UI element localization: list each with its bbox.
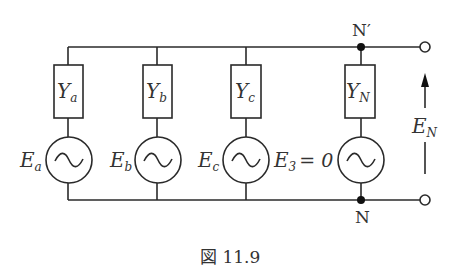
- svg-text:Ea: Ea: [19, 148, 42, 174]
- branch-n: YN E3= 0: [273, 47, 384, 200]
- branch-a: Ya Ea: [19, 47, 92, 200]
- terminal-top-icon: [420, 42, 430, 52]
- node-n-prime-dot: [357, 43, 365, 51]
- branch-b: Yb Eb: [109, 47, 181, 200]
- ec-label: E: [197, 148, 213, 172]
- node-n-prime-label: N′: [352, 20, 371, 40]
- eb-label: E: [109, 148, 125, 172]
- circuit-diagram: Ya Ea Yb Eb Yc Ec YN E3= 0 N′ N: [0, 0, 470, 269]
- ea-label: E: [19, 148, 35, 172]
- node-n-label: N: [355, 207, 370, 227]
- terminal-bottom-icon: [420, 195, 430, 205]
- branch-c: Yc Ec: [197, 47, 269, 200]
- e3-label: E: [273, 148, 289, 172]
- en-label: E: [411, 114, 427, 138]
- svg-text:EN: EN: [411, 114, 438, 140]
- figure-caption: 図 11.9: [200, 247, 260, 267]
- svg-text:Eb: Eb: [109, 148, 132, 174]
- voltage-arrow-en: EN: [411, 73, 438, 174]
- svg-text:Ec: Ec: [197, 148, 220, 174]
- svg-text:E3= 0: E3= 0: [273, 148, 333, 174]
- node-n-dot: [357, 196, 365, 204]
